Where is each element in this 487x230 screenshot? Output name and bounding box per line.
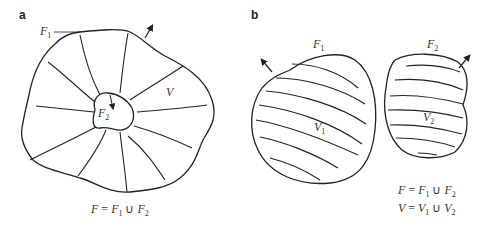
label-f2-b: F2 bbox=[427, 37, 438, 53]
outer-surface-f1 bbox=[22, 30, 215, 193]
outward-normal-arrow-a bbox=[145, 26, 152, 38]
label-f2-a: F2 bbox=[98, 106, 109, 122]
label-volume-a: V bbox=[166, 85, 173, 100]
label-v1-b: V1 bbox=[314, 120, 325, 136]
radial-lines bbox=[30, 33, 207, 192]
equation-b-v: V = V1 ∪ V2 bbox=[398, 201, 456, 217]
label-f1-a: F1 bbox=[40, 24, 51, 40]
outward-normal-arrow-b1 bbox=[262, 60, 272, 72]
label-f1-b: F1 bbox=[313, 37, 324, 53]
body1-hatch-lines bbox=[256, 64, 366, 180]
inward-normal-arrow-a bbox=[110, 95, 113, 108]
equation-a: F = F1 ∪ F2 bbox=[91, 202, 149, 218]
panel-label-a: a bbox=[19, 8, 26, 22]
panel-label-b: b bbox=[251, 8, 258, 22]
outward-normal-arrow-b2 bbox=[459, 56, 469, 68]
label-v2-b: V2 bbox=[423, 110, 434, 126]
equation-b-f: F = F1 ∪ F2 bbox=[398, 183, 456, 199]
